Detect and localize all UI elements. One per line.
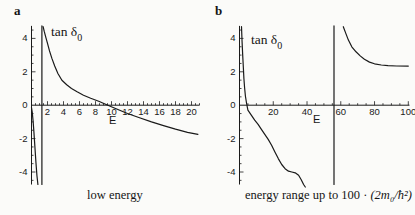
series-branch-above-resonance [343,27,408,66]
series-branch-below-resonance [32,108,38,185]
panel-a-plot-title: tan δ0 [51,24,82,42]
panel-a-caption: low energy [87,188,143,203]
panel-b-letter: b [215,3,222,19]
x-tick-label: 100 [400,106,415,117]
x-tick-label: 20 [268,106,279,117]
y-tick-label: -4 [19,166,27,177]
tan-delta-label: tan δ [51,24,77,39]
panel-a-x-axis-label: E [109,114,116,126]
y-tick-label: 0 [230,99,235,110]
x-tick-label: 20 [186,106,197,117]
y-tick-label: 4 [22,32,27,43]
x-tick-label: 16 [154,106,165,117]
y-tick-label: 4 [230,32,235,43]
caption-text: low energy [87,188,143,202]
x-tick-label: 18 [170,106,181,117]
tan-delta-subscript: 0 [77,32,82,43]
y-tick-label: 0 [22,99,27,110]
tan-delta-subscript: 0 [277,40,282,51]
y-tick-label: -4 [227,166,235,177]
tan-delta-label: tan δ [251,32,277,47]
panel-b-plot-title: tan δ0 [251,32,282,50]
x-tick-label: 40 [302,106,313,117]
x-tick-label: 2 [45,106,50,117]
panel-b: 20406080100-4-2024 b tan δ0 E energy ran… [207,0,415,215]
y-tick-label: 2 [230,66,235,77]
x-tick-label: 14 [138,106,149,117]
chart-b: 20406080100-4-2024 [207,0,415,215]
series-branch-above-resonance [43,27,198,135]
figure: 2468101214161820-4-2024 a tan δ0 E low e… [0,0,415,215]
x-tick-label: 8 [93,106,98,117]
y-tick-label: -2 [227,133,235,144]
x-tick-label: 6 [77,106,82,117]
panel-b-x-axis-label: E [313,113,320,125]
caption-text: energy range up to 100 · [245,188,370,202]
x-tick-label: 80 [369,106,380,117]
chart-a: 2468101214161820-4-2024 [0,0,207,215]
panel-a: 2468101214161820-4-2024 a tan δ0 E low e… [0,0,207,215]
panel-a-letter: a [14,3,21,19]
x-tick-label: 60 [335,106,346,117]
x-tick-label: 4 [61,106,66,117]
caption-math: (2m₀/ħ²) [370,188,411,202]
y-tick-label: -2 [19,133,27,144]
y-tick-label: 2 [22,66,27,77]
panel-b-caption: energy range up to 100 · (2m₀/ħ²) [245,188,412,203]
